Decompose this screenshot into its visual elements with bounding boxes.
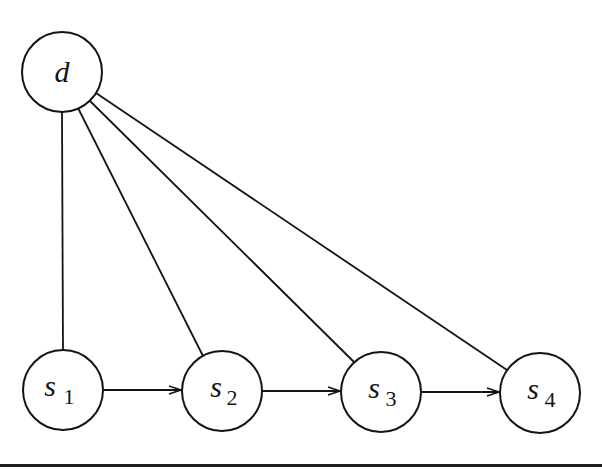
node-d: d xyxy=(22,32,102,112)
node-s1: s 1 xyxy=(23,350,103,430)
node-s1-label: s xyxy=(44,369,56,402)
node-s3-circle xyxy=(341,352,421,432)
node-s3: s 3 xyxy=(341,352,421,432)
node-s4-circle xyxy=(500,353,580,433)
node-s4-subscript: 4 xyxy=(545,387,556,412)
node-s2: s 2 xyxy=(182,351,262,431)
node-s3-subscript: 3 xyxy=(386,386,397,411)
node-s3-label: s xyxy=(368,371,380,404)
node-s2-subscript: 2 xyxy=(227,385,238,410)
node-s4: s 4 xyxy=(500,353,580,433)
edge-d-s3 xyxy=(90,101,354,362)
node-s2-circle xyxy=(182,351,262,431)
edge-d-s2 xyxy=(78,108,203,356)
bottom-rule xyxy=(0,464,602,467)
graph-diagram: d s 1 s 2 s 3 s 4 xyxy=(0,0,602,469)
node-s1-subscript: 1 xyxy=(64,384,75,409)
node-s4-label: s xyxy=(527,372,539,405)
node-d-label: d xyxy=(55,55,71,88)
edge-d-s4 xyxy=(96,93,507,370)
node-s2-label: s xyxy=(210,370,222,403)
edge-d-s1 xyxy=(62,112,63,352)
